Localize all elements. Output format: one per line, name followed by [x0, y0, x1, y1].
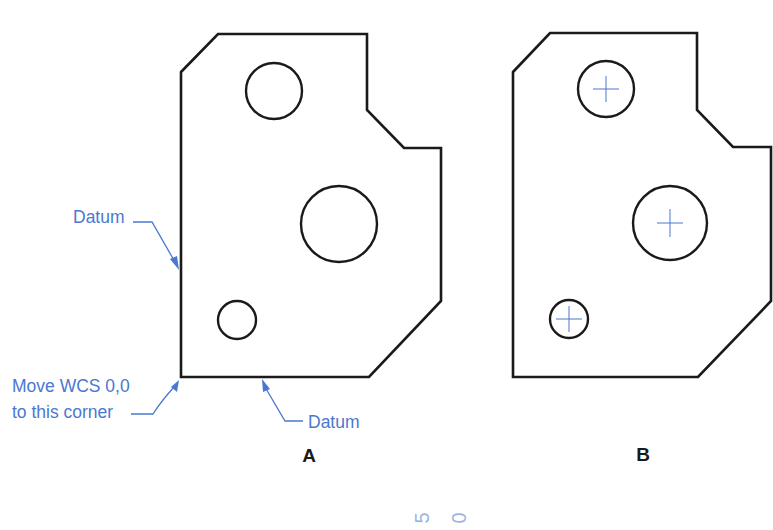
- datum-left-arrow-icon: [170, 256, 179, 270]
- part-a: Datum Move WCS 0,0 to this corner Datum …: [12, 34, 441, 466]
- diagram-canvas: Datum Move WCS 0,0 to this corner Datum …: [0, 0, 773, 530]
- origin-callout: Move WCS 0,0 to this corner: [12, 376, 179, 422]
- figure-label-b: B: [636, 444, 650, 465]
- part-b-large-center-mark-icon: [657, 209, 683, 237]
- datum-bottom-callout: Datum: [262, 379, 360, 432]
- figure-label-a: A: [302, 445, 316, 466]
- part-a-large-hole: [301, 186, 377, 262]
- datum-bottom-leader: [265, 387, 303, 421]
- datum-left-leader: [133, 222, 175, 262]
- origin-label-line2: to this corner: [12, 402, 113, 422]
- part-a-small-hole: [218, 301, 256, 339]
- origin-leader: [131, 386, 175, 414]
- datum-left-callout: Datum: [73, 207, 179, 270]
- part-a-upper-hole: [246, 63, 302, 119]
- datum-bottom-arrow-icon: [262, 379, 270, 392]
- part-b-small-center-mark-icon: [556, 306, 582, 332]
- origin-arrow-icon: [171, 380, 179, 392]
- bleed-digit-5: 5: [411, 512, 433, 523]
- origin-label-line1: Move WCS 0,0: [12, 376, 130, 396]
- bleed-digit-0: 0: [448, 512, 470, 523]
- part-b: B: [513, 33, 771, 465]
- datum-bottom-label: Datum: [308, 412, 360, 432]
- bleed-through-text: 5 0: [411, 512, 470, 523]
- datum-left-label: Datum: [73, 207, 125, 227]
- part-b-upper-center-mark-icon: [593, 76, 619, 102]
